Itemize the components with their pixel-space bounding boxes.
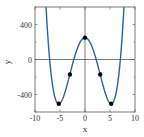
data-point-marker xyxy=(83,35,87,39)
data-point-marker xyxy=(68,72,72,76)
x-tick-labels: -10-50510 xyxy=(30,114,139,123)
y-tick-label: 0 xyxy=(28,56,32,65)
x-axis-label: x xyxy=(83,124,88,134)
x-tick-label: -5 xyxy=(57,114,64,123)
data-point-marker xyxy=(57,102,61,106)
x-tick-label: -10 xyxy=(30,114,41,123)
data-point-marker xyxy=(109,102,113,106)
y-tick-label: 400 xyxy=(20,21,32,30)
y-tick-label: -400 xyxy=(17,91,32,100)
y-tick-labels: -4000400 xyxy=(17,21,32,100)
x-tick-label: 5 xyxy=(108,114,112,123)
x-tick-label: 10 xyxy=(131,114,139,123)
chart: -10-50510 -4000400 x y xyxy=(0,0,144,137)
data-point-marker xyxy=(98,72,102,76)
y-axis-label: y xyxy=(2,59,12,64)
x-tick-label: 0 xyxy=(83,114,87,123)
